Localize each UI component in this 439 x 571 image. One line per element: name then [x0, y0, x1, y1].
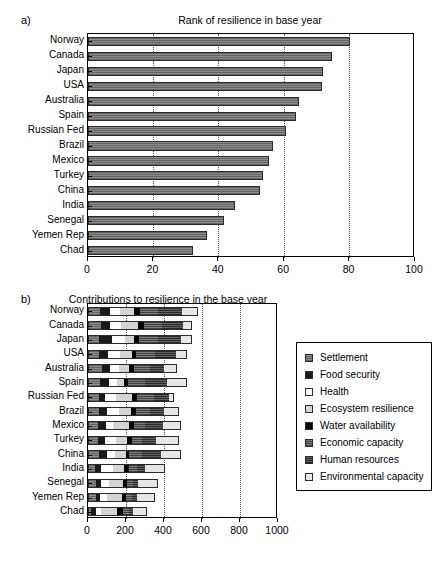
panel-a-rank-of-resilience: a) Rank of resilience in base year Norwa…	[0, 0, 439, 285]
x-tick-label: 80	[343, 263, 355, 275]
stack-segment-human	[142, 450, 161, 459]
category-label: Russian Fed	[28, 391, 84, 401]
legend-swatch-icon	[305, 388, 313, 396]
category-label: Spain	[58, 110, 84, 120]
y-tick-mark	[88, 71, 92, 72]
y-tick-mark	[88, 221, 92, 222]
panel-b-category-labels: NorwayCanadaJapanUSAAustraliaSpainRussia…	[0, 303, 84, 518]
category-label: China	[58, 449, 84, 459]
bar-mexico	[88, 156, 269, 165]
y-tick-mark	[88, 369, 92, 370]
legend-swatch-icon	[305, 354, 313, 362]
stack-segment-human	[154, 393, 169, 402]
y-tick-mark	[88, 86, 92, 87]
stack-segment-food	[100, 378, 109, 387]
panel-b-legend: SettlementFood securityHealthEcosystem r…	[296, 342, 432, 491]
legend-item-settlement[interactable]: Settlement	[305, 352, 368, 364]
stack-segment-food	[101, 321, 110, 330]
legend-label: Human resources	[320, 455, 399, 465]
y-tick-mark	[88, 469, 92, 470]
category-label: Yemen Rep	[32, 492, 84, 502]
stack-segment-human	[142, 436, 156, 445]
category-label: Chad	[60, 245, 84, 255]
stack-segment-ecosys	[107, 493, 122, 502]
stack-segment-food	[98, 436, 106, 445]
bar-row	[88, 246, 415, 255]
bar-row	[88, 112, 415, 121]
y-tick-mark	[88, 397, 92, 398]
legend-item-human-resources[interactable]: Human resources	[305, 454, 399, 466]
y-tick-mark	[88, 146, 92, 147]
y-tick-mark	[88, 251, 92, 252]
stacked-bar-row	[88, 421, 278, 430]
legend-swatch-icon	[305, 371, 313, 379]
panel-a-title: Rank of resilience in base year	[130, 14, 370, 26]
stack-segment-ecosys	[116, 393, 132, 402]
bar-china	[88, 186, 260, 195]
stack-segment-human	[155, 350, 176, 359]
category-label: Brazil	[59, 140, 84, 150]
stack-segment-ecosys	[109, 479, 123, 488]
y-tick-mark	[88, 116, 92, 117]
y-tick-mark	[88, 455, 92, 456]
x-tick-label: 100	[405, 263, 423, 275]
stack-segment-envcap	[181, 335, 192, 344]
bar-row	[88, 201, 415, 210]
y-tick-mark	[88, 41, 92, 42]
bar-brazil	[88, 141, 273, 150]
stacked-bar-row	[88, 464, 278, 473]
legend-item-environmental-capacity[interactable]: Environmental capacity	[305, 471, 423, 483]
legend-item-health[interactable]: Health	[305, 386, 349, 398]
stack-segment-human	[150, 407, 164, 416]
legend-item-economic-capacity[interactable]: Economic capacity	[305, 437, 403, 449]
bar-row	[88, 67, 415, 76]
stack-segment-envcap	[138, 479, 157, 488]
stack-segment-health	[112, 335, 125, 344]
stack-segment-econ	[129, 450, 143, 459]
stack-segment-envcap	[164, 364, 177, 373]
y-tick-mark	[88, 383, 92, 384]
x-tick-label: 200	[116, 524, 134, 536]
category-label: Norway	[50, 35, 84, 45]
bar-row	[88, 82, 415, 91]
legend-swatch-icon	[305, 456, 313, 464]
legend-item-food-security[interactable]: Food security	[305, 369, 380, 381]
bar-row	[88, 97, 415, 106]
bar-yemen-rep	[88, 231, 207, 240]
stack-segment-human	[145, 421, 162, 430]
category-label: Canada	[49, 50, 84, 60]
stacked-bar-row	[88, 378, 278, 387]
x-tick-mark	[348, 257, 349, 261]
bar-turkey	[88, 171, 263, 180]
x-tick-label: 600	[192, 524, 210, 536]
bar-chad	[88, 246, 193, 255]
panel-a-x-axis: 020406080100	[87, 257, 414, 279]
legend-label: Water availability	[320, 421, 395, 431]
bar-india	[88, 201, 235, 210]
y-tick-mark	[88, 326, 92, 327]
stack-segment-health	[107, 407, 119, 416]
stack-segment-envcap	[156, 436, 179, 445]
stack-segment-econ	[140, 307, 159, 316]
stack-segment-food	[99, 450, 106, 459]
legend-item-ecosystem-resilience[interactable]: Ecosystem resilience	[305, 403, 414, 415]
stack-segment-food	[99, 350, 108, 359]
legend-label: Economic capacity	[320, 438, 403, 448]
legend-item-water-availability[interactable]: Water availability	[305, 420, 395, 432]
stack-segment-food	[100, 307, 111, 316]
stack-segment-human	[162, 321, 183, 330]
stack-segment-econ	[128, 378, 146, 387]
x-tick-label: 0	[84, 524, 90, 536]
bar-row	[88, 126, 415, 135]
x-tick-mark	[414, 257, 415, 261]
stack-segment-econ	[132, 436, 143, 445]
y-tick-mark	[88, 236, 92, 237]
category-label: Senegal	[47, 477, 84, 487]
x-tick-label: 800	[230, 524, 248, 536]
stack-segment-envcap	[161, 450, 181, 459]
category-label: Australia	[45, 363, 84, 373]
bar-russian-fed	[88, 126, 286, 135]
y-tick-mark	[88, 440, 92, 441]
category-label: Mexico	[52, 420, 84, 430]
stack-segment-ecosys	[119, 364, 130, 373]
